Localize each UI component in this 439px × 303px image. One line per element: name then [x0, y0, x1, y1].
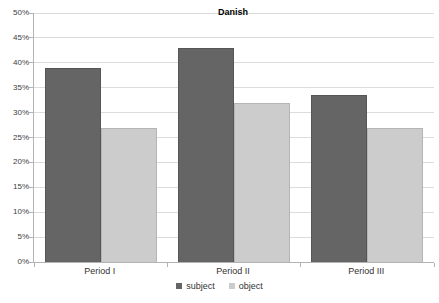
- y-tick-label: 50%: [0, 8, 29, 17]
- y-tick-label: 10%: [0, 207, 29, 216]
- x-category-label: Period I: [33, 266, 166, 276]
- y-tick-label: 0%: [0, 257, 29, 266]
- subject-swatch-icon: [176, 283, 182, 289]
- object-swatch-icon: [229, 283, 235, 289]
- bar-object-period-i: [101, 128, 157, 262]
- bar-subject-period-i: [45, 68, 101, 262]
- bar-subject-period-ii: [178, 48, 234, 262]
- y-tick-label: 45%: [0, 33, 29, 42]
- legend-item-object: object: [229, 281, 263, 291]
- y-tick-label: 40%: [0, 58, 29, 67]
- y-tick-label: 15%: [0, 182, 29, 191]
- y-axis-tick: [29, 62, 33, 63]
- y-axis-tick: [29, 262, 33, 263]
- bar-chart: Danish 0%5%10%15%20%25%30%35%40%45%50% P…: [0, 0, 439, 303]
- y-axis-tick: [29, 37, 33, 38]
- y-axis-tick: [29, 212, 33, 213]
- plot-area: [33, 13, 434, 263]
- bar-subject-period-iii: [311, 95, 367, 262]
- bar-object-period-ii: [234, 103, 290, 262]
- y-axis-tick: [29, 137, 33, 138]
- x-category-label: Period II: [166, 266, 299, 276]
- y-axis-tick: [29, 237, 33, 238]
- bar-groups: [34, 13, 434, 262]
- legend-label-object: object: [239, 281, 263, 291]
- chart-title: Danish: [33, 7, 433, 17]
- y-tick-label: 5%: [0, 232, 29, 241]
- y-tick-label: 25%: [0, 133, 29, 142]
- y-axis-tick: [29, 112, 33, 113]
- y-axis-tick: [29, 87, 33, 88]
- legend-label-subject: subject: [186, 281, 215, 291]
- y-tick-label: 35%: [0, 83, 29, 92]
- legend: subject object: [0, 281, 439, 291]
- bar-object-period-iii: [367, 128, 423, 262]
- x-category-label: Period III: [300, 266, 433, 276]
- y-axis-tick: [29, 187, 33, 188]
- x-axis-tick: [434, 263, 435, 267]
- bar-group-period-ii: [167, 13, 300, 262]
- legend-item-subject: subject: [176, 281, 215, 291]
- y-tick-label: 20%: [0, 157, 29, 166]
- y-axis-tick: [29, 162, 33, 163]
- y-tick-label: 30%: [0, 108, 29, 117]
- bar-group-period-i: [34, 13, 167, 262]
- bar-group-period-iii: [301, 13, 434, 262]
